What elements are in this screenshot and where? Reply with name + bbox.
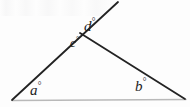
degree-symbol-a: ° (38, 81, 42, 91)
angle-label-c: c° (70, 36, 79, 49)
angle-label-a: a° (30, 82, 41, 98)
geometry-figure: a° b° c° d° (0, 0, 190, 107)
angle-letter-b: b (135, 78, 143, 94)
triangle-left-side-with-ray (12, 2, 118, 100)
degree-symbol-d: ° (92, 17, 96, 27)
triangle-right-side (80, 33, 185, 99)
degree-symbol-b: ° (143, 77, 147, 87)
triangle-base-line (12, 100, 186, 101)
angle-letter-d: d (84, 18, 92, 34)
angle-letter-a: a (30, 82, 38, 98)
angle-label-b: b° (135, 78, 146, 94)
degree-symbol-c: ° (76, 35, 79, 44)
angle-label-d: d° (84, 18, 95, 34)
